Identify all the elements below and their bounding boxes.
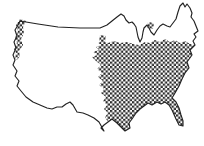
us-map-svg [0,0,204,146]
us-range-map-figure [0,0,204,146]
shaded-fragment-upper-midwest [99,35,106,42]
shaded-fragment-great-lakes [147,22,154,29]
